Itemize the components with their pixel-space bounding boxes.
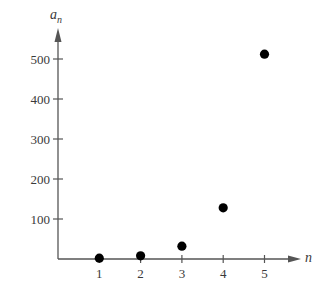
x-axis-arrow-icon [288, 256, 301, 263]
y-axis-label: an [50, 7, 62, 25]
y-tick-label: 200 [31, 172, 51, 187]
y-tick-label: 300 [31, 132, 51, 147]
x-axis-label: n [305, 250, 312, 265]
x-tick-label: 2 [137, 266, 144, 281]
y-tick-label: 400 [31, 92, 51, 107]
y-tick-label: 500 [31, 52, 51, 67]
x-tick-label: 3 [179, 266, 186, 281]
x-tick-label: 5 [261, 266, 268, 281]
data-point [95, 254, 104, 263]
data-point [177, 242, 186, 251]
x-tick-label: 4 [220, 266, 227, 281]
data-point [136, 251, 145, 260]
data-point [219, 203, 228, 212]
x-tick-label: 1 [96, 266, 103, 281]
data-point [260, 50, 269, 59]
axes [55, 28, 302, 263]
y-axis-arrow-icon [55, 28, 62, 42]
data-points [95, 50, 269, 263]
scatter-plot: 100200300400500 12345 n an [0, 0, 313, 292]
y-tick-label: 100 [31, 212, 51, 227]
